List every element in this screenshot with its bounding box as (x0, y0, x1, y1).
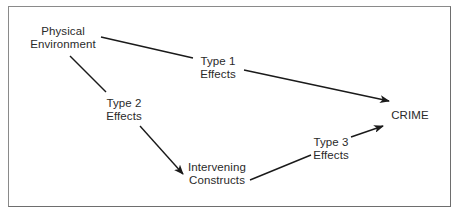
edge-label-line: Type 1 (196, 55, 240, 68)
node-crime: CRIME (389, 109, 431, 122)
edge-label-line: Type 2 (102, 97, 146, 110)
edge-label-type2: Type 2 Effects (102, 97, 146, 123)
edge-label-line: Effects (309, 149, 353, 162)
edge-label-type3: Type 3 Effects (309, 136, 353, 162)
node-label-line: Constructs (184, 174, 250, 187)
edge-type2-segment-a (70, 56, 106, 92)
edge-label-line: Type 3 (309, 136, 353, 149)
edge-type1-segment-a (101, 37, 193, 58)
node-label-line: Intervening (184, 161, 250, 174)
edge-label-type1: Type 1 Effects (196, 55, 240, 81)
edge-type3-arrow (351, 126, 383, 137)
edge-label-line: Effects (102, 110, 146, 123)
node-label-line: CRIME (389, 109, 431, 122)
node-physical-environment: Physical Environment (28, 25, 98, 51)
edge-type2-arrow (140, 126, 183, 174)
edge-type3-segment-a (250, 155, 311, 180)
node-intervening-constructs: Intervening Constructs (184, 161, 250, 187)
edge-label-line: Effects (196, 68, 240, 81)
node-label-line: Environment (28, 38, 98, 51)
edge-type1-arrow (244, 70, 389, 101)
node-label-line: Physical (28, 25, 98, 38)
